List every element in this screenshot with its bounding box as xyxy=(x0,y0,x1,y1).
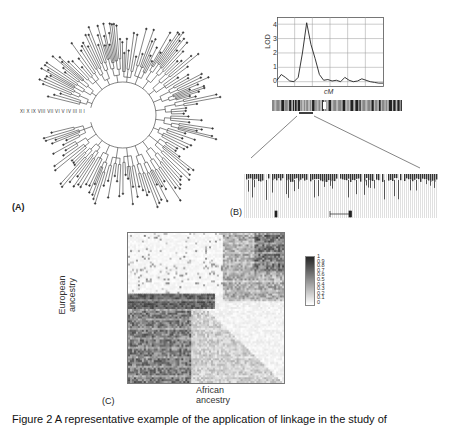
figure-caption: Figure 2 A representative example of the… xyxy=(12,413,387,425)
colorbar xyxy=(305,256,315,306)
haplotype-detail xyxy=(244,172,439,220)
panel-label-b: (B) xyxy=(230,207,242,217)
caption-text: Figure 2 A representative example of the… xyxy=(12,413,387,425)
heatmap-xlabel: African ancestry xyxy=(196,386,230,406)
ld-heatmap xyxy=(127,232,285,384)
panel-label-c: (C) xyxy=(102,396,115,406)
heatmap-ylabel: European ancestry xyxy=(58,260,78,330)
colorbar-tick: 0 xyxy=(317,300,320,306)
